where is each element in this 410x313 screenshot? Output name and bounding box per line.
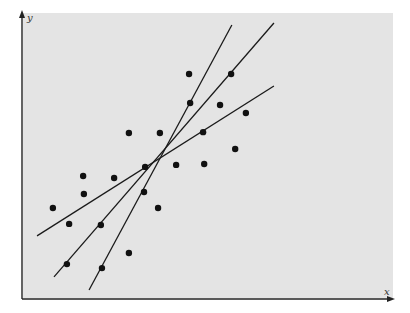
data-point: [142, 164, 148, 170]
data-point: [111, 175, 117, 181]
data-point: [50, 205, 56, 211]
data-point: [200, 129, 206, 135]
data-point: [228, 71, 234, 77]
plot-background: [23, 13, 393, 298]
data-point: [126, 130, 132, 136]
data-point: [126, 250, 132, 256]
data-point: [201, 161, 207, 167]
x-axis-label: x: [384, 286, 390, 297]
data-point: [173, 162, 179, 168]
data-point: [66, 221, 72, 227]
data-point: [81, 191, 87, 197]
data-point: [99, 265, 105, 271]
data-point: [80, 173, 86, 179]
data-point: [155, 205, 161, 211]
data-point: [217, 102, 223, 108]
data-point: [243, 110, 249, 116]
data-point: [98, 222, 104, 228]
data-point: [186, 71, 192, 77]
data-point: [157, 130, 163, 136]
data-point: [187, 100, 193, 106]
data-point: [232, 146, 238, 152]
y-axis-label: y: [26, 12, 33, 23]
scatter-chart: y x: [0, 0, 410, 313]
data-point: [141, 189, 147, 195]
data-point: [64, 261, 70, 267]
